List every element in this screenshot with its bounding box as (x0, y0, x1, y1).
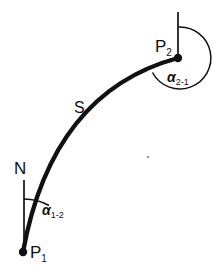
label-alpha-1-2-symbol: α (42, 202, 51, 218)
label-alpha-2-1-subscript: 2-1 (176, 77, 189, 87)
label-alpha-2-1: α2-1 (167, 70, 189, 84)
label-curve-s: S (74, 100, 85, 116)
label-north: N (14, 160, 26, 177)
geodesic-azimuth-diagram: P1 P2 N S α1-2 α2-1 (0, 0, 223, 273)
label-point-p1: P1 (30, 244, 47, 261)
geodesic-curve-s (23, 58, 178, 252)
label-alpha-1-2-subscript: 1-2 (51, 210, 64, 220)
label-point-p2: P2 (155, 38, 172, 55)
point-marker-p1 (19, 248, 27, 256)
label-point-p2-subscript: 2 (166, 47, 172, 58)
stray-dot (147, 156, 149, 158)
label-alpha-2-1-symbol: α (167, 69, 176, 85)
point-marker-p2 (174, 54, 182, 62)
label-point-p1-subscript: 1 (41, 253, 47, 264)
label-point-p1-text: P (30, 243, 41, 262)
diagram-canvas (0, 0, 223, 273)
label-alpha-1-2: α1-2 (42, 203, 64, 217)
label-point-p2-text: P (155, 37, 166, 56)
